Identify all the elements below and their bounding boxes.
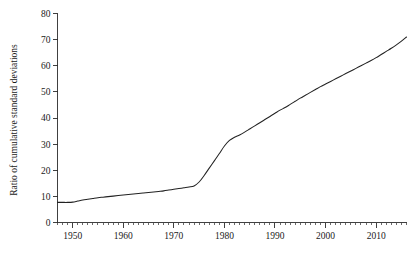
x-axis-tick-label: 1980	[215, 231, 234, 241]
y-axis-tick-label: 80	[41, 9, 51, 19]
y-axis-tick-label: 40	[41, 113, 51, 123]
y-axis-title: Ratio of cumulative standard deviations	[9, 44, 19, 196]
y-axis-tick-label: 50	[41, 87, 51, 97]
y-axis-tick-label: 60	[41, 61, 51, 71]
y-axis-tick-label: 10	[41, 192, 51, 202]
y-axis-tick-label: 0	[46, 218, 51, 228]
x-axis-tick-label: 1990	[265, 231, 284, 241]
x-axis-tick-label: 1960	[114, 231, 133, 241]
x-axis-tick-label: 1950	[63, 231, 82, 241]
x-axis-tick-label: 2010	[367, 231, 386, 241]
x-axis-tick-label: 2000	[316, 231, 335, 241]
y-axis-tick-label: 20	[41, 166, 51, 176]
y-axis-tick-label: 30	[41, 140, 51, 150]
chart-figure: 01020304050607080 1950196019701980199020…	[0, 0, 413, 260]
line-chart: 01020304050607080 1950196019701980199020…	[0, 0, 413, 260]
y-axis-tick-label: 70	[41, 35, 51, 45]
chart-background	[0, 0, 413, 260]
x-axis-tick-label: 1970	[164, 231, 183, 241]
